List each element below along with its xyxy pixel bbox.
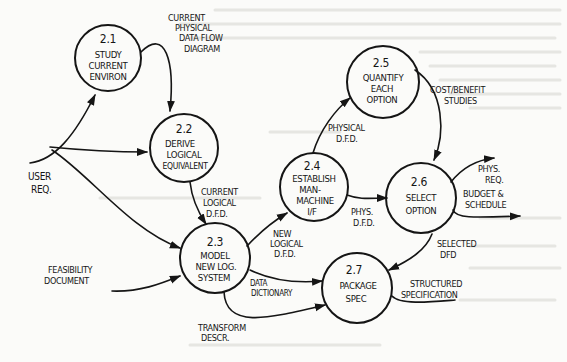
svg-text:NEW: NEW xyxy=(273,229,292,239)
process-label: MACHINE xyxy=(296,195,334,206)
process-label: DERIVE xyxy=(165,138,195,149)
svg-text:CURRENT: CURRENT xyxy=(168,13,205,23)
flow-2.6-to-2.7 xyxy=(389,234,432,270)
current-physical-dfd-label: CURRENT PHYSICAL DATA FLOW DIAGRAM xyxy=(168,13,223,54)
process-label: SYSTEM xyxy=(198,272,230,283)
svg-text:SPECIFICATION: SPECIFICATION xyxy=(401,290,458,300)
svg-text:COST/BENEFIT: COST/BENEFIT xyxy=(430,85,485,95)
feasibility-document-label: FEASIBILITY DOCUMENT xyxy=(44,265,93,286)
svg-text:DFD: DFD xyxy=(440,250,456,260)
process-label: ESTABLISH xyxy=(292,173,335,184)
transform-descr-label: TRANSFORM DESCR. xyxy=(197,323,246,343)
svg-text:PHYS.: PHYS. xyxy=(351,207,373,217)
svg-text:D.F.D.: D.F.D. xyxy=(206,209,228,219)
process-label: SELECT xyxy=(406,192,437,203)
structured-specification-label: STRUCTURED SPECIFICATION xyxy=(401,279,462,300)
svg-text:SCHEDULE: SCHEDULE xyxy=(465,200,507,210)
process-label: OPTION xyxy=(406,205,437,216)
process-label: I/F xyxy=(307,206,317,217)
svg-text:SELECTED: SELECTED xyxy=(437,239,476,249)
process-label: MODEL xyxy=(200,250,230,261)
flow-2.6-to-budget xyxy=(453,210,520,217)
flow-2.1-to-2.2 xyxy=(141,44,171,111)
svg-text:REQ.: REQ. xyxy=(31,184,52,195)
process-number: 2.4 xyxy=(304,159,321,173)
process-label: ENVIRON xyxy=(89,71,126,82)
svg-text:DESCR.: DESCR. xyxy=(201,333,229,343)
process-number: 2.1 xyxy=(100,32,116,46)
svg-text:DATA: DATA xyxy=(250,279,268,288)
svg-text:PHYSICAL: PHYSICAL xyxy=(175,23,213,33)
process-2.7: 2.7 PACKAGE SPEC xyxy=(322,253,392,323)
process-label: NEW LOG. xyxy=(195,261,236,272)
data-flow-diagram: 2.1 STUDY CURRENT ENVIRON 2.2 DERIVE LOG… xyxy=(0,0,567,362)
svg-text:DICTIONARY: DICTIONARY xyxy=(251,289,293,298)
process-2.4: 2.4 ESTABLISH MAN- MACHINE I/F xyxy=(280,153,348,221)
flow-2.4-to-2.6 xyxy=(347,195,387,198)
new-logical-dfd-label: NEW LOGICAL D.F.D. xyxy=(270,229,304,259)
flow-user-req-to-2.1 xyxy=(30,95,95,163)
user-req-label: USER REQ. xyxy=(28,171,52,195)
process-number: 2.6 xyxy=(411,175,428,189)
process-label: EACH xyxy=(371,83,393,94)
budget-schedule-label: BUDGET & SCHEDULE xyxy=(463,189,507,210)
process-number: 2.3 xyxy=(207,235,223,249)
process-label: LOGICAL xyxy=(167,149,202,160)
selected-dfd-label: SELECTED DFD xyxy=(437,239,476,260)
svg-text:DOCUMENT: DOCUMENT xyxy=(44,276,89,286)
process-label: OPTION xyxy=(367,94,398,105)
svg-text:BUDGET &: BUDGET & xyxy=(463,189,505,199)
process-2.2: 2.2 DERIVE LOGICAL EQUIVALENT xyxy=(150,114,218,182)
process-label: EQUIVALENT xyxy=(162,161,208,171)
process-label: STUDY xyxy=(95,49,123,60)
process-number: 2.7 xyxy=(346,263,362,277)
svg-text:CURRENT: CURRENT xyxy=(201,187,238,197)
process-2.1: 2.1 STUDY CURRENT ENVIRON xyxy=(75,25,141,91)
process-label: MAN- xyxy=(299,184,321,195)
svg-text:PHYS.: PHYS. xyxy=(478,164,500,174)
svg-text:FEASIBILITY: FEASIBILITY xyxy=(48,265,93,275)
svg-text:USER: USER xyxy=(28,171,51,182)
svg-text:REQ.: REQ. xyxy=(485,175,503,185)
svg-text:PHYSICAL: PHYSICAL xyxy=(328,123,366,133)
process-2.3: 2.3 MODEL NEW LOG. SYSTEM xyxy=(180,223,250,293)
process-number: 2.2 xyxy=(176,122,192,136)
process-label: QUANTIFY xyxy=(363,72,405,83)
svg-text:DATA FLOW: DATA FLOW xyxy=(179,33,223,43)
svg-text:DIAGRAM: DIAGRAM xyxy=(184,44,220,54)
svg-text:STUDIES: STUDIES xyxy=(444,96,477,106)
svg-text:STRUCTURED: STRUCTURED xyxy=(410,279,462,289)
process-label: CURRENT xyxy=(88,60,128,71)
flow-feasibility-to-2.3 xyxy=(112,276,180,291)
svg-text:D.F.D.: D.F.D. xyxy=(353,218,375,228)
current-logical-dfd-label: CURRENT LOGICAL D.F.D. xyxy=(201,187,238,219)
process-2.6: 2.6 SELECT OPTION xyxy=(386,163,456,233)
svg-text:D.F.D.: D.F.D. xyxy=(274,249,296,259)
svg-text:LOGICAL: LOGICAL xyxy=(203,198,237,208)
svg-text:D.F.D.: D.F.D. xyxy=(336,134,358,144)
process-number: 2.5 xyxy=(373,56,389,70)
svg-text:LOGICAL: LOGICAL xyxy=(270,239,304,249)
phys-dfd-label: PHYS. D.F.D. xyxy=(351,207,375,228)
process-2.5: 2.5 QUANTIFY EACH OPTION xyxy=(347,46,419,118)
process-label: PACKAGE xyxy=(339,280,376,291)
flow-user-req-to-2.2 xyxy=(50,147,147,152)
svg-text:TRANSFORM: TRANSFORM xyxy=(197,323,246,333)
data-dictionary-label: DATA DICTIONARY xyxy=(250,279,293,298)
phys-req-label: PHYS. REQ. xyxy=(478,164,503,185)
process-label: SPEC xyxy=(346,293,367,304)
